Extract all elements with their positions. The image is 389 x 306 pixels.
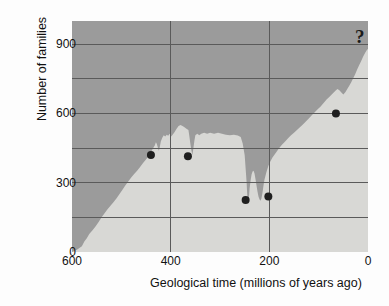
chart-figure: 0300600900 6004002000 Number of families…	[0, 0, 389, 306]
x-tick-label: 600	[62, 255, 82, 267]
x-tick-label: 200	[259, 255, 279, 267]
extinction-markers	[72, 21, 368, 252]
plot-area	[72, 21, 368, 252]
y-axis-title: Number of families	[35, 0, 49, 149]
x-axis-title: Geological time (millions of years ago)	[150, 276, 362, 290]
x-tick-label: 400	[161, 255, 181, 267]
y-tick-label: 300	[36, 177, 76, 189]
uncertainty-marker: ?	[355, 27, 365, 46]
x-tick-label: 0	[365, 255, 372, 267]
